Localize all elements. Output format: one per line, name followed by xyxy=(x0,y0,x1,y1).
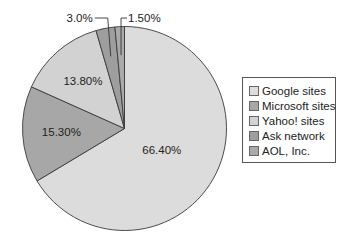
legend-swatch xyxy=(249,116,259,126)
legend-label: AOL, Inc. xyxy=(262,145,310,157)
legend-item-google: Google sites xyxy=(249,83,335,98)
legend-label: Google sites xyxy=(262,85,326,97)
legend-item-ask: Ask network xyxy=(249,129,335,144)
legend-label: Ask network xyxy=(262,130,325,142)
data-label-aol-inc: 1.50% xyxy=(128,12,161,24)
legend-swatch xyxy=(249,131,259,141)
legend-label: Microsoft sites xyxy=(262,100,336,112)
legend-item-aol: AOL, Inc. xyxy=(249,144,335,159)
data-label-microsoft-sites: 15.30% xyxy=(42,126,81,138)
legend-swatch xyxy=(249,86,259,96)
legend-item-microsoft: Microsoft sites xyxy=(249,98,335,113)
legend-item-yahoo: Yahoo! sites xyxy=(249,113,335,128)
legend-label: Yahoo! sites xyxy=(262,115,324,127)
data-label-ask-network: 3.0% xyxy=(67,12,93,24)
legend-swatch xyxy=(249,146,259,156)
legend: Google sites Microsoft sites Yahoo! site… xyxy=(242,77,336,163)
data-label-yahoo-sites: 13.80% xyxy=(63,75,102,87)
data-label-google-sites: 66.40% xyxy=(142,144,181,156)
legend-swatch xyxy=(249,101,259,111)
